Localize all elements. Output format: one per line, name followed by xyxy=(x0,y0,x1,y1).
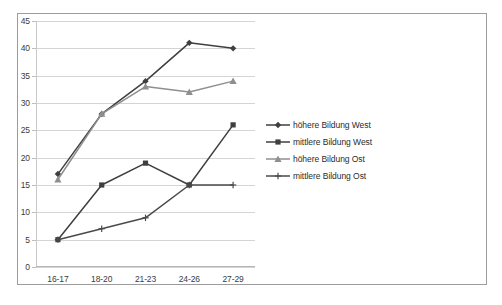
plot-area: 051015202530354045 16-1718-2021-2324-262… xyxy=(36,21,255,267)
legend-item-label: höhere Bildung West xyxy=(293,120,371,130)
x-tick-label: 27-29 xyxy=(222,274,243,284)
series-line xyxy=(58,43,233,174)
legend-item[interactable]: mittlere Bildung West xyxy=(265,133,465,150)
x-tick-label: 21-23 xyxy=(135,274,156,284)
data-point-marker xyxy=(230,78,237,84)
y-tick-label: 25 xyxy=(21,125,30,135)
data-point-marker xyxy=(231,122,236,127)
legend-item[interactable]: mittlere Bildung Ost xyxy=(265,167,465,184)
y-tick-label: 5 xyxy=(25,235,30,245)
chart-container: 051015202530354045 16-1718-2021-2324-262… xyxy=(0,0,502,305)
data-point-marker xyxy=(143,161,148,166)
legend-marker-icon xyxy=(265,118,291,132)
chart-legend: höhere Bildung Westmittlere Bildung West… xyxy=(265,116,465,184)
series-line xyxy=(58,185,233,240)
legend-marker-icon xyxy=(265,135,291,149)
y-tick-label: 15 xyxy=(21,180,30,190)
series-lines xyxy=(36,21,255,267)
legend-marker-icon xyxy=(265,152,291,166)
legend-item-label: mittlere Bildung Ost xyxy=(293,171,366,181)
legend-item-label: mittlere Bildung West xyxy=(293,137,372,147)
data-point-marker xyxy=(99,226,105,232)
y-tick-label: 30 xyxy=(21,98,30,108)
data-series xyxy=(55,182,237,243)
y-tick-label: 45 xyxy=(21,16,30,26)
y-tick-label: 40 xyxy=(21,43,30,53)
y-tick-label: 10 xyxy=(21,207,30,217)
x-tick-label: 18-20 xyxy=(91,274,112,284)
y-tick-mark xyxy=(32,267,36,268)
x-tick-label: 24-26 xyxy=(179,274,200,284)
data-point-marker xyxy=(230,45,236,51)
y-tick-label: 0 xyxy=(25,262,30,272)
x-tick-label: 16-17 xyxy=(47,274,68,284)
legend-item[interactable]: höhere Bildung West xyxy=(265,116,465,133)
legend-item[interactable]: höhere Bildung Ost xyxy=(265,150,465,167)
legend-item-label: höhere Bildung Ost xyxy=(293,154,365,164)
gridline xyxy=(36,267,255,268)
series-line xyxy=(58,125,233,240)
data-point-marker xyxy=(230,182,236,188)
data-series xyxy=(54,78,236,183)
y-tick-label: 35 xyxy=(21,71,30,81)
y-tick-label: 20 xyxy=(21,153,30,163)
data-point-marker xyxy=(99,182,104,187)
legend-marker-icon xyxy=(265,169,291,183)
